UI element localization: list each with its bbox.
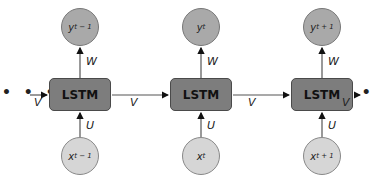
output-node-t: yt [182, 8, 220, 46]
output-sub: t − 1 [74, 23, 92, 31]
output-node-t-minus-1: yt − 1 [61, 8, 99, 46]
input-sub: t − 1 [74, 152, 92, 160]
lstm-cell-t-minus-1: LSTM [49, 78, 111, 111]
weight-v-label: V [342, 96, 350, 109]
input-sub: t + 1 [316, 152, 334, 160]
weight-v-label: V [34, 96, 42, 109]
output-node-t-plus-1: yt + 1 [303, 8, 341, 46]
input-sub: t [203, 152, 206, 160]
weight-u-label: U [328, 119, 336, 132]
weight-v-label: V [130, 96, 138, 109]
weight-u-label: U [86, 119, 94, 132]
weight-v-label: V [248, 96, 256, 109]
weight-w-label: W [328, 55, 339, 68]
weight-u-label: U [207, 119, 215, 132]
output-sub: t [203, 23, 206, 31]
input-node-t: xt [182, 137, 220, 175]
output-sub: t + 1 [316, 23, 334, 31]
weight-w-label: W [86, 55, 97, 68]
weight-w-label: W [207, 55, 218, 68]
input-node-t-minus-1: xt − 1 [61, 137, 99, 175]
lstm-cell-t: LSTM [170, 78, 232, 111]
input-node-t-plus-1: xt + 1 [303, 137, 341, 175]
